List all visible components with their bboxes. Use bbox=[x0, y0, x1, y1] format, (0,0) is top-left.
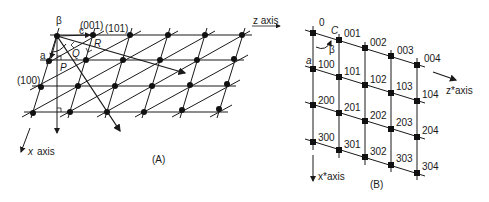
panel-a-caption: (A) bbox=[152, 154, 165, 165]
point-label-104: 104 bbox=[422, 89, 439, 100]
point-label-303: 303 bbox=[396, 153, 413, 164]
point-label-103: 103 bbox=[396, 81, 413, 92]
point-label-204: 204 bbox=[422, 125, 439, 136]
z-axis-label: z axis bbox=[253, 15, 279, 26]
point-label-300: 300 bbox=[318, 132, 335, 143]
point-label-001: 001 bbox=[344, 28, 361, 39]
a-vector-arrow bbox=[51, 36, 57, 58]
point-label-003: 003 bbox=[397, 45, 414, 56]
plane-100-label: (100) bbox=[17, 75, 40, 86]
x-axis-word: axis bbox=[37, 146, 55, 157]
origin-label: 0 bbox=[319, 17, 325, 28]
point-label-101: 101 bbox=[344, 66, 361, 77]
beta-label: β bbox=[56, 15, 62, 26]
point-label-002: 002 bbox=[370, 37, 387, 48]
point-label-004: 004 bbox=[424, 53, 441, 64]
x-axis-letter: x bbox=[27, 146, 34, 157]
lattice-column-line bbox=[142, 28, 170, 118]
point-label-301: 301 bbox=[344, 139, 361, 150]
point-label-201: 201 bbox=[344, 102, 361, 113]
point-label-304: 304 bbox=[422, 161, 439, 172]
zstar-axis-label: z*axis bbox=[446, 85, 473, 96]
beta-label: β bbox=[329, 44, 335, 55]
q-label: Q bbox=[72, 48, 80, 59]
c-label: C bbox=[331, 25, 339, 36]
plane-101-line bbox=[97, 31, 250, 117]
p-label: P bbox=[60, 62, 67, 73]
c-label: c bbox=[79, 25, 84, 36]
point-label-202: 202 bbox=[370, 110, 387, 121]
point-label-200: 200 bbox=[318, 95, 335, 106]
xstar-axis-label: x*axis bbox=[318, 171, 345, 182]
panel-a bbox=[21, 26, 280, 152]
point-label-100: 100 bbox=[318, 59, 335, 70]
panel-b-caption: (B) bbox=[370, 179, 383, 190]
point-label-203: 203 bbox=[396, 117, 413, 128]
a-label: a bbox=[40, 50, 46, 61]
zstar-axis-arrow bbox=[433, 72, 456, 80]
a-label: a bbox=[306, 55, 312, 66]
plane-101-label: (101) bbox=[105, 23, 128, 34]
diagram-canvas: β (001) (101) (100) c a R Q P z axis x a… bbox=[0, 0, 489, 202]
right-angle-mark bbox=[57, 108, 61, 112]
r-label: R bbox=[94, 38, 101, 49]
point-label-102: 102 bbox=[370, 74, 387, 85]
point-label-302: 302 bbox=[370, 146, 387, 157]
